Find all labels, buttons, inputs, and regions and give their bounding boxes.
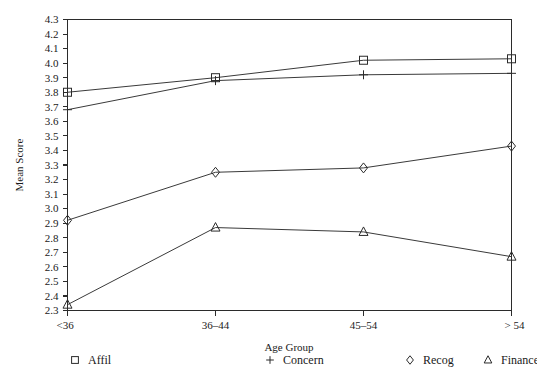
y-tick-label: 3.9: [45, 72, 59, 84]
legend-item-affil[interactable]: Affil: [72, 353, 112, 367]
series-line-finance: [68, 228, 512, 305]
line-chart-plot: 4.34.24.14.03.93.83.73.63.53.43.33.23.13…: [0, 0, 537, 382]
x-axis-title: Age Group: [264, 341, 314, 353]
legend-item-recog[interactable]: Recog: [407, 353, 454, 367]
y-tick-label: 3.7: [45, 101, 59, 113]
x-tick-label: 45–54: [350, 319, 378, 331]
y-tick-label: 3.2: [45, 173, 59, 185]
x-axis: <3636–4445–54> 54: [57, 311, 525, 331]
y-axis: 4.34.24.14.03.93.83.73.63.53.43.33.23.13…: [45, 13, 68, 316]
x-tick-label: <36: [57, 319, 75, 331]
series-concern: [63, 69, 516, 114]
y-tick-label: 4.2: [45, 28, 59, 40]
marker-triangle: [484, 356, 492, 363]
x-tick-label: 36–44: [202, 319, 230, 331]
y-tick-label: 2.9: [45, 217, 59, 229]
y-tick-label: 3.8: [45, 86, 59, 98]
chart-legend: AffilConcernRecogFinance: [72, 353, 537, 367]
legend-item-finance[interactable]: Finance: [484, 353, 537, 367]
marker-square: [72, 357, 79, 364]
y-tick-label: 4.1: [45, 42, 59, 54]
y-tick-label: 3.0: [45, 202, 59, 214]
y-tick-label: 4.0: [45, 57, 59, 69]
series-finance: [63, 223, 516, 309]
y-tick-label: 2.5: [45, 275, 59, 287]
plot-frame: [68, 20, 512, 311]
y-axis-title: Mean Score: [13, 138, 25, 191]
series-recog: [64, 141, 516, 225]
marker-diamond: [407, 356, 414, 365]
y-tick-label: 2.3: [45, 304, 59, 316]
y-tick-label: 4.3: [45, 13, 59, 25]
x-tick-label: > 54: [505, 319, 525, 331]
series-line-affil: [68, 59, 512, 92]
y-tick-label: 3.3: [45, 159, 59, 171]
y-tick-label: 2.7: [45, 246, 59, 258]
legend-label-finance: Finance: [501, 353, 537, 367]
y-tick-label: 3.6: [45, 115, 59, 127]
chart-container: 4.34.24.14.03.93.83.73.63.53.43.33.23.13…: [0, 0, 537, 382]
y-tick-label: 3.5: [45, 130, 59, 142]
y-tick-label: 3.4: [45, 144, 59, 156]
series-layer: [63, 55, 516, 308]
legend-label-affil: Affil: [88, 353, 112, 367]
marker-triangle: [359, 227, 368, 236]
series-affil: [64, 55, 516, 96]
y-tick-label: 2.6: [45, 261, 59, 273]
marker-triangle: [211, 223, 220, 232]
y-tick-label: 3.1: [45, 188, 59, 200]
legend-label-concern: Concern: [283, 353, 324, 367]
series-line-recog: [68, 146, 512, 220]
legend-label-recog: Recog: [423, 353, 454, 367]
legend-item-concern[interactable]: Concern: [266, 353, 323, 367]
y-tick-label: 2.4: [45, 290, 59, 302]
y-tick-label: 2.8: [45, 232, 59, 244]
series-line-concern: [68, 73, 512, 109]
